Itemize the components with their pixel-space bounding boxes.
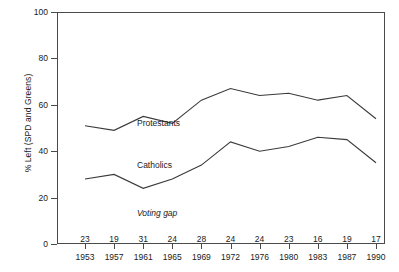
x-tick-mark bbox=[347, 244, 348, 249]
y-axis-tick-labels: 020406080100 bbox=[22, 0, 48, 272]
y-tick-mark bbox=[51, 244, 57, 245]
plot-area: Protestants Catholics Voting gap 2319312… bbox=[57, 12, 385, 244]
series-lines bbox=[57, 12, 385, 244]
line-protestants bbox=[85, 89, 376, 131]
x-tick-mark bbox=[289, 244, 290, 249]
y-tick-label: 80 bbox=[22, 53, 48, 63]
y-tick-label: 100 bbox=[22, 7, 48, 17]
y-tick-label: 60 bbox=[22, 100, 48, 110]
voting-gap-value: 17 bbox=[356, 234, 396, 244]
line-catholics bbox=[85, 137, 376, 188]
y-tick-label: 40 bbox=[22, 146, 48, 156]
x-tick-mark bbox=[318, 244, 319, 249]
x-tick-mark bbox=[260, 244, 261, 249]
chart-figure: % Left (SPD and Greens) 020406080100 Pro… bbox=[0, 0, 399, 272]
series-label-protestants: Protestants bbox=[137, 118, 180, 128]
x-tick-mark bbox=[114, 244, 115, 249]
x-tick-mark bbox=[231, 244, 232, 249]
voting-gap-label: Voting gap bbox=[137, 208, 177, 218]
x-tick-mark bbox=[172, 244, 173, 249]
x-tick-mark bbox=[85, 244, 86, 249]
y-tick-label: 0 bbox=[22, 239, 48, 249]
x-tick-mark bbox=[143, 244, 144, 249]
series-label-catholics: Catholics bbox=[137, 160, 172, 170]
y-tick-label: 20 bbox=[22, 193, 48, 203]
x-tick-label: 1990 bbox=[356, 252, 396, 262]
x-tick-mark bbox=[376, 244, 377, 249]
x-tick-mark bbox=[201, 244, 202, 249]
